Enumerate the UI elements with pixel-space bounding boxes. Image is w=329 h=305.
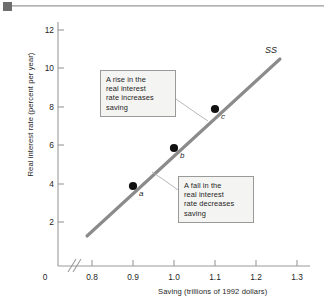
- y-tick-label-10: 10: [32, 63, 54, 73]
- axis-origin-label: 0: [30, 272, 60, 282]
- data-point-label-b: b: [180, 151, 184, 160]
- saving-supply-chart-figure: 12 10 8 6 4 2 0 0.8 0.9 1.0 1.1 1.2 1.3 …: [0, 0, 329, 305]
- data-point-label-c: c: [221, 112, 225, 121]
- x-axis-title: Saving (trillions of 1992 dollars): [158, 287, 328, 296]
- annotation-fall-line-2: real interest: [184, 190, 248, 199]
- x-tick-label-0-9: 0.9: [118, 272, 148, 282]
- data-point-c: [211, 105, 219, 113]
- x-tick-label-1-2: 1.2: [241, 272, 271, 282]
- x-tick-label-1-0: 1.0: [159, 272, 189, 282]
- x-tick-label-0-8: 0.8: [77, 272, 107, 282]
- y-tick-label-12: 12: [32, 25, 54, 35]
- annotation-rise-line-4: saving: [106, 103, 170, 112]
- annotation-rise-line-3: rate increases: [106, 93, 170, 102]
- annotation-fall-line-4: saving: [184, 209, 248, 218]
- x-tick-label-1-1: 1.1: [200, 272, 230, 282]
- annotation-rise-line-2: real interest: [106, 84, 170, 93]
- x-axis-ticks: [92, 260, 297, 266]
- data-point-b: [170, 144, 178, 152]
- annotation-note-rise: A rise in the real interest rate increas…: [100, 70, 176, 117]
- data-point-a: [129, 182, 137, 190]
- y-axis-ticks: [58, 30, 64, 222]
- annotation-leader-fall: [152, 172, 178, 190]
- annotation-fall-line-3: rate decreases: [184, 199, 248, 208]
- chart-plot-area: [0, 0, 329, 305]
- annotation-note-fall: A fall in the real interest rate decreas…: [178, 176, 254, 223]
- x-tick-label-1-3: 1.3: [282, 272, 312, 282]
- y-tick-label-6: 6: [32, 140, 54, 150]
- ss-curve-label: SS: [265, 45, 277, 55]
- y-tick-label-8: 8: [32, 102, 54, 112]
- annotation-fall-line-1: A fall in the: [184, 181, 248, 190]
- annotation-rise-line-1: A rise in the: [106, 75, 170, 84]
- y-tick-label-2: 2: [32, 217, 54, 227]
- y-axis-title: Real interest rate (percent per year): [26, 15, 35, 215]
- y-tick-label-4: 4: [32, 179, 54, 189]
- annotation-leader-rise: [176, 99, 208, 121]
- data-point-label-a: a: [139, 189, 143, 198]
